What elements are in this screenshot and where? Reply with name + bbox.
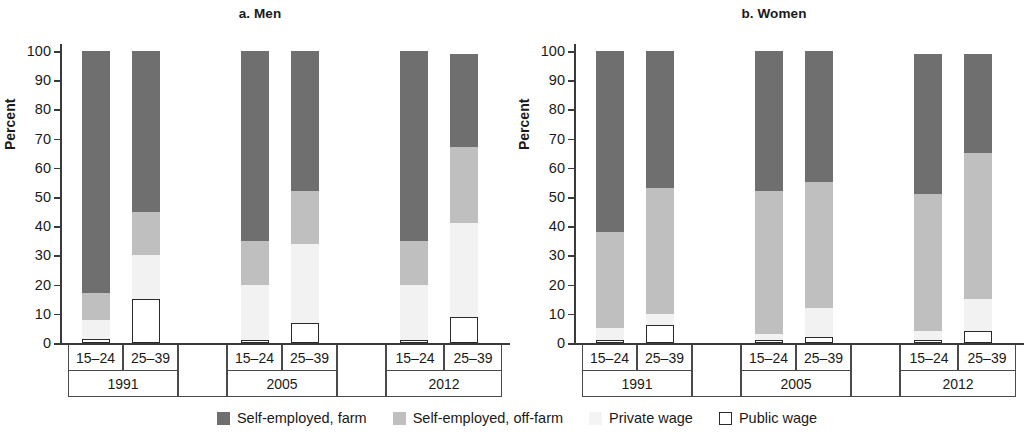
- bar-segment-public: [596, 340, 624, 343]
- bar-segment-farm: [596, 51, 624, 232]
- bar-segment-public: [450, 317, 478, 343]
- bar-segment-offfarm: [646, 188, 674, 314]
- bar-segment-farm: [291, 51, 319, 191]
- x-axis-year-cell: 1991: [68, 371, 178, 397]
- x-axis-age-cell: 25–39: [282, 345, 337, 371]
- bar-segment-public: [241, 340, 269, 343]
- y-tick-label-40: 40: [35, 219, 51, 234]
- y-tick-80: [54, 109, 60, 111]
- bar-segment-public: [132, 299, 160, 343]
- y-tick-label-30: 30: [35, 248, 51, 263]
- figure-root: a. Men Percent 010203040506070809010015–…: [0, 0, 1034, 435]
- y-tick-90: [568, 80, 574, 82]
- legend-label: Self-employed, off-farm: [413, 410, 563, 426]
- bar-segment-private: [241, 285, 269, 340]
- x-axis-age-cell: 15–24: [900, 345, 958, 371]
- bar-segment-private: [291, 244, 319, 323]
- y-tick-label-90: 90: [35, 73, 51, 88]
- bar-segment-farm: [964, 54, 992, 153]
- bar-segment-private: [596, 328, 624, 340]
- x-axis-age-cell: 15–24: [386, 345, 444, 371]
- y-tick-label-60: 60: [35, 161, 51, 176]
- bar-bwomen-1991-15-24: [596, 51, 624, 343]
- bar-segment-farm: [450, 54, 478, 147]
- y-tick-label-40: 40: [549, 219, 565, 234]
- bar-segment-private: [450, 223, 478, 316]
- bar-segment-private: [755, 334, 783, 340]
- bar-segment-farm: [805, 51, 833, 182]
- legend-label: Public wage: [739, 410, 817, 426]
- plot-area-women: 010203040506070809010015–2425–39199115–2…: [574, 44, 1024, 344]
- legend-label: Private wage: [609, 410, 693, 426]
- panel-women-title: b. Women: [514, 6, 1034, 21]
- x-axis-year-cell: 2005: [227, 371, 337, 397]
- y-tick-50: [54, 197, 60, 199]
- bar-amen-2012-15-24: [400, 51, 428, 343]
- y-tick-label-0: 0: [43, 336, 51, 351]
- bar-segment-offfarm: [82, 293, 110, 319]
- bar-bwomen-2012-25-39: [964, 51, 992, 343]
- x-axis-age-cell: 25–39: [637, 345, 692, 371]
- filled-square-dark-icon: [217, 412, 230, 425]
- y-tick-10: [568, 314, 574, 316]
- y-tick-label-20: 20: [35, 277, 51, 292]
- x-axis-age-cell: 25–39: [958, 345, 1016, 371]
- y-tick-label-100: 100: [541, 44, 565, 59]
- y-tick-50: [568, 197, 574, 199]
- bar-amen-2012-25-39: [450, 51, 478, 343]
- legend-item-public: Public wage: [719, 410, 817, 426]
- filled-square-light-icon: [589, 412, 602, 425]
- x-axis-age-cell: 15–24: [741, 345, 796, 371]
- bar-segment-public: [805, 337, 833, 343]
- bar-segment-farm: [132, 51, 160, 212]
- bar-segment-offfarm: [914, 194, 942, 331]
- x-axis-age-cell: 25–39: [796, 345, 851, 371]
- x-axis-age-cell: 25–39: [444, 345, 502, 371]
- bar-segment-offfarm: [450, 147, 478, 223]
- bar-segment-private: [82, 320, 110, 339]
- y-tick-20: [568, 285, 574, 287]
- y-axis-line-women: [574, 44, 576, 344]
- bar-segment-farm: [400, 51, 428, 241]
- y-tick-label-80: 80: [549, 102, 565, 117]
- y-tick-30: [568, 255, 574, 257]
- bar-segment-offfarm: [291, 191, 319, 244]
- outlined-square-icon: [719, 412, 732, 425]
- x-axis-age-cell: 15–24: [68, 345, 123, 371]
- y-tick-80: [568, 109, 574, 111]
- bar-bwomen-2005-25-39: [805, 51, 833, 343]
- x-axis-spacer-cell: [851, 345, 900, 397]
- bar-amen-2005-25-39: [291, 51, 319, 343]
- y-tick-10: [54, 314, 60, 316]
- filled-square-medium-icon: [393, 412, 406, 425]
- bar-segment-public: [400, 340, 428, 343]
- y-tick-0: [568, 343, 574, 345]
- y-tick-label-60: 60: [549, 161, 565, 176]
- bar-segment-offfarm: [241, 241, 269, 285]
- bar-segment-farm: [755, 51, 783, 191]
- legend-item-farm: Self-employed, farm: [217, 410, 367, 426]
- bar-segment-offfarm: [755, 191, 783, 334]
- bar-segment-offfarm: [596, 232, 624, 328]
- x-axis-year-cell: 2012: [900, 371, 1016, 397]
- panel-men-title: a. Men: [0, 6, 520, 21]
- y-tick-40: [568, 226, 574, 228]
- legend-item-offfarm: Self-employed, off-farm: [393, 410, 563, 426]
- bar-segment-private: [132, 255, 160, 299]
- y-tick-label-50: 50: [549, 190, 565, 205]
- legend: Self-employed, farmSelf-employed, off-fa…: [0, 404, 1034, 432]
- bar-amen-1991-15-24: [82, 51, 110, 343]
- panel-men: a. Men Percent 010203040506070809010015–…: [0, 0, 520, 400]
- panel-women: b. Women Percent 01020304050607080901001…: [514, 0, 1034, 400]
- y-tick-0: [54, 343, 60, 345]
- bar-segment-private: [805, 308, 833, 337]
- x-axis-age-cell: 15–24: [227, 345, 282, 371]
- y-tick-label-90: 90: [549, 73, 565, 88]
- legend-item-private: Private wage: [589, 410, 693, 426]
- bar-segment-public: [291, 323, 319, 343]
- bar-segment-private: [400, 285, 428, 340]
- bar-segment-offfarm: [132, 212, 160, 256]
- x-axis-year-cell: 2005: [741, 371, 851, 397]
- x-axis-spacer-cell: [337, 345, 386, 397]
- y-tick-label-0: 0: [557, 336, 565, 351]
